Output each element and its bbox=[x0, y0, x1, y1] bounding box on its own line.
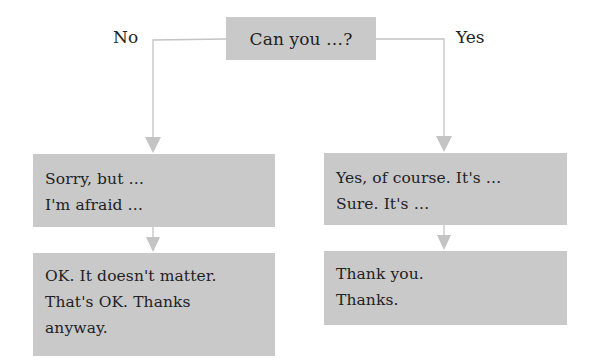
yes-reply-box: Thank you. Thanks. bbox=[324, 251, 567, 325]
yes-reply-line: Thank you. bbox=[336, 261, 567, 287]
yes-branch-arrowhead-icon bbox=[436, 136, 452, 152]
no-reply-box: OK. It doesn't matter. That's OK. Thanks… bbox=[33, 253, 275, 356]
no-response-box: Sorry, but … I'm afraid … bbox=[33, 154, 275, 227]
yes-response-line: Sure. It's … bbox=[336, 191, 567, 217]
yes-branch-connector bbox=[376, 39, 444, 137]
yes-branch-label: Yes bbox=[456, 27, 485, 47]
yes-reply-line: Thanks. bbox=[336, 287, 567, 313]
no-reply-line: anyway. bbox=[45, 315, 275, 341]
yes-followup-arrowhead-icon bbox=[437, 235, 451, 250]
question-text: Can you …? bbox=[250, 26, 353, 52]
no-followup-arrowhead-icon bbox=[146, 237, 160, 252]
no-response-line: I'm afraid … bbox=[45, 192, 275, 218]
no-response-line: Sorry, but … bbox=[45, 166, 275, 192]
no-reply-line: That's OK. Thanks bbox=[45, 289, 275, 315]
no-branch-arrowhead-icon bbox=[145, 137, 161, 153]
flowchart-canvas: No Yes Can you …? Sorry, but … I'm afrai… bbox=[0, 0, 596, 362]
yes-response-line: Yes, of course. It's … bbox=[336, 165, 567, 191]
no-reply-line: OK. It doesn't matter. bbox=[45, 263, 275, 289]
question-box: Can you …? bbox=[226, 17, 376, 60]
no-branch-connector bbox=[153, 39, 226, 138]
no-branch-label: No bbox=[113, 27, 138, 47]
yes-response-box: Yes, of course. It's … Sure. It's … bbox=[324, 153, 567, 225]
